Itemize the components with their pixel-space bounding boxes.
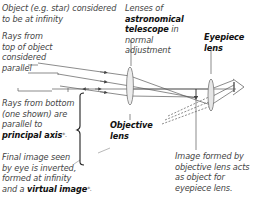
principal-axis-term: principal axis	[2, 130, 62, 140]
eye-icon	[233, 79, 244, 95]
final-image-label: Final image seen by eye is inverted, for…	[2, 152, 92, 194]
telescope-label: Lenses of astronomical telescope in norm…	[125, 3, 184, 56]
intermediate-image-label: Image formed by objective lens acts as o…	[175, 151, 249, 193]
eyepiece-lens	[208, 79, 214, 111]
rays-top-label: Rays from top of object considered paral…	[2, 31, 52, 73]
virtual-image-term: virtual image	[27, 184, 87, 194]
rays-bottom-label: Rays from bottom (one shown) are paralle…	[2, 98, 74, 140]
objective-lens-label: Objective lens	[110, 120, 153, 141]
objective-lens	[127, 67, 134, 105]
object-label: Object (e.g. star) considered to be at i…	[2, 3, 116, 24]
eyepiece-lens-label: Eyepiece lens	[204, 32, 244, 53]
